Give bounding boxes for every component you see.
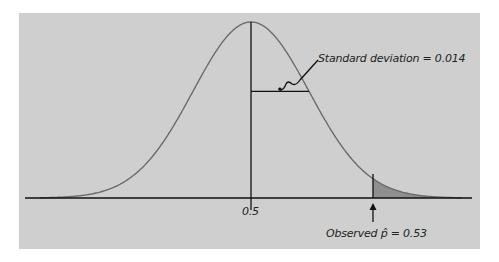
observed-suffix: = 0.53: [387, 227, 426, 240]
observed-prefix: Observed: [326, 227, 381, 240]
center-tick-label: 0.5: [242, 205, 259, 218]
sd-leader-arrow: [279, 60, 318, 90]
sd-leader-dot: [278, 87, 281, 90]
normal-curve-chart: [0, 0, 499, 262]
sd-label: Standard deviation = 0.014: [318, 52, 465, 65]
observed-label: Observed p̂ = 0.53: [326, 227, 427, 240]
observed-arrow-head: [370, 203, 377, 210]
